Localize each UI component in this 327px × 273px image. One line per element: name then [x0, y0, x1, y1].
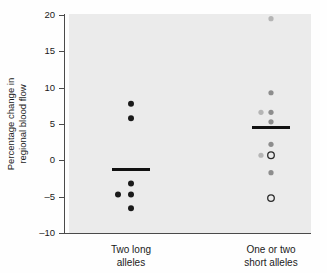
- plot-area-background: [69, 14, 311, 233]
- y-tick-label-1: 15: [44, 45, 55, 56]
- data-point-s0-1: [128, 115, 134, 121]
- category-0-line-2: alleles: [117, 257, 145, 268]
- y-axis-title-line-2: regional blood flow: [17, 84, 28, 163]
- y-tick-label-4: 0: [50, 154, 55, 165]
- y-axis-tick-labels: 20151050–5–10: [39, 9, 55, 238]
- y-tick-label-0: 20: [44, 9, 55, 20]
- data-point-s0-2: [128, 181, 134, 187]
- category-label-one-or-two-short-alleles: One or two short alleles: [244, 244, 297, 268]
- category-0-line-1: Two long: [111, 244, 151, 255]
- data-point-s1-1: [268, 90, 273, 95]
- data-point-s1-0: [268, 16, 273, 21]
- data-point-s1-3: [268, 110, 273, 115]
- data-point-s0-3: [115, 191, 121, 197]
- y-tick-label-3: 5: [50, 118, 55, 129]
- data-point-s1-8: [268, 170, 273, 175]
- category-label-two-long-alleles: Two long alleles: [111, 244, 151, 268]
- y-axis-title-line-1: Percentage change in: [5, 78, 16, 170]
- category-1-line-2: short alleles: [244, 257, 297, 268]
- category-1-line-1: One or two: [247, 244, 296, 255]
- data-point-s1-6: [258, 153, 263, 158]
- data-point-s1-5: [268, 142, 273, 147]
- y-axis-ticks: [59, 16, 65, 234]
- data-point-s1-4: [268, 119, 273, 124]
- figure-container: 20151050–5–10 Percentage change in regio…: [0, 0, 327, 273]
- y-tick-label-5: –5: [44, 191, 55, 202]
- data-point-s0-4: [128, 191, 134, 197]
- data-point-s0-5: [128, 205, 134, 211]
- y-axis-title: Percentage change in regional blood flow: [5, 78, 28, 170]
- y-tick-label-2: 10: [44, 82, 55, 93]
- y-tick-label-6: –10: [39, 227, 55, 238]
- data-point-s1-2: [258, 110, 263, 115]
- data-point-s0-0: [128, 101, 134, 107]
- dot-plot-chart: 20151050–5–10 Percentage change in regio…: [0, 0, 327, 273]
